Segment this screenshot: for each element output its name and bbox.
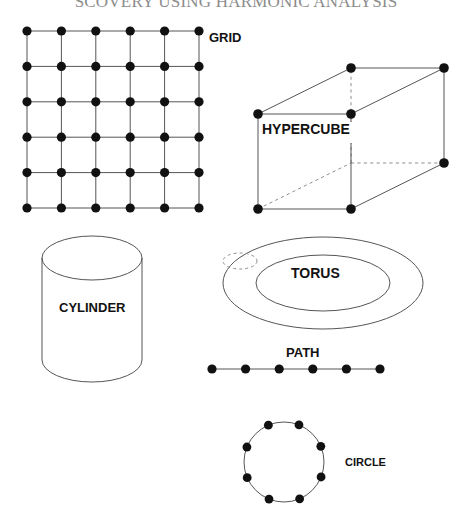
panel-cylinder: CYLINDER [42, 236, 142, 382]
circle-label: CIRCLE [345, 456, 386, 468]
torus-tube-marker-dashed [223, 253, 257, 269]
path-label: PATH [286, 345, 319, 360]
grid-edges [27, 31, 199, 208]
page-title: SCOVERY USING HARMONIC ANALYSIS [0, 0, 472, 7]
panel-grid: GRID [22, 26, 241, 212]
grid-vertices [22, 26, 203, 212]
torus-label: TORUS [291, 265, 340, 281]
figure-root: SCOVERY USING HARMONIC ANALYSIS GRID HYP… [0, 0, 472, 526]
torus-body [223, 237, 423, 329]
panel-circle: CIRCLE [243, 421, 386, 504]
grid-label: GRID [209, 30, 242, 45]
circle-edge-ring [244, 422, 324, 502]
graph-families-figure: GRID HYPERCUBE CYLINDER TORUS PATH [0, 0, 472, 526]
panel-hypercube: HYPERCUBE [253, 63, 449, 214]
circle-vertices [243, 421, 326, 504]
cylinder-label: CYLINDER [59, 300, 126, 315]
hypercube-label: HYPERCUBE [262, 121, 350, 137]
panel-path: PATH [207, 345, 384, 374]
panel-torus: TORUS [223, 237, 423, 329]
